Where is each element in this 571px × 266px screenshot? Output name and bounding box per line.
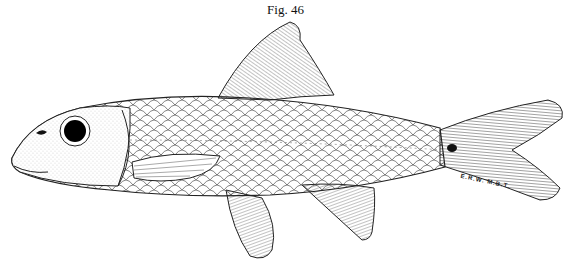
eye — [60, 116, 90, 146]
dorsal-fin — [218, 22, 334, 100]
anal-fin — [302, 184, 375, 240]
pelvic-fin — [226, 190, 274, 258]
caudal-spot — [447, 144, 457, 152]
fish-illustration — [0, 0, 571, 266]
